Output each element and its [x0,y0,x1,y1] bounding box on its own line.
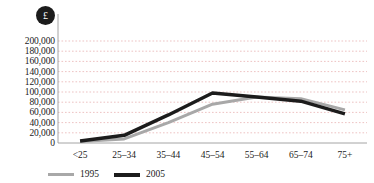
x-axis-tick-label: 65–74 [289,150,313,161]
chart-legend: 19952005 [48,168,180,181]
y-axis-tick-label: 120,000 [25,77,55,87]
legend-item-1995[interactable]: 1995 [48,169,99,180]
x-axis-tick-label: 35–44 [156,150,180,161]
y-axis-tick-label: 180,000 [25,46,55,56]
line-chart: £ 200,000180,000160,000140,000120,000100… [0,0,374,183]
legend-swatch-icon [48,173,74,176]
y-axis-tick-label: 160,000 [25,56,55,66]
y-axis-tick-label: 20,000 [29,128,55,138]
x-axis-tick-label: 25–34 [112,150,136,161]
x-axis-labels: <2525–3435–4445–5455–6465–7475+ [58,150,370,164]
y-axis-tick-label: 100,000 [25,87,55,97]
legend-item-2005[interactable]: 2005 [114,169,165,180]
axis-lines [58,14,367,143]
currency-badge: £ [36,6,55,25]
x-axis-tick-label: 55–64 [245,150,269,161]
x-axis-tick-label: 75+ [337,150,352,161]
x-axis-tick-label: <25 [73,150,88,161]
y-axis-tick-label: 60,000 [29,107,55,117]
y-axis-tick-label: 200,000 [25,36,55,46]
gridlines [58,41,367,133]
x-axis-tick-label: 45–54 [201,150,225,161]
y-axis-tick-label: 0 [50,138,55,148]
y-axis-tick-label: 140,000 [25,67,55,77]
y-axis-tick-label: 80,000 [29,97,55,107]
y-axis-tick-label: 40,000 [29,118,55,128]
legend-label: 2005 [146,169,165,180]
series-lines [80,93,345,141]
legend-swatch-icon [114,173,140,177]
y-axis-labels: 200,000180,000160,000140,000120,000100,0… [0,36,58,148]
legend-label: 1995 [80,169,99,180]
